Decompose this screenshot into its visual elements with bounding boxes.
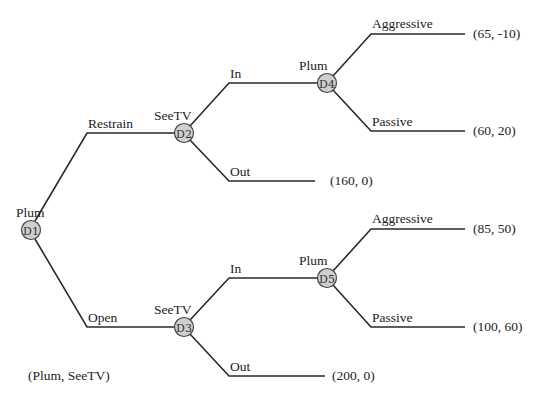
game-tree: D1 D2 D3 D4 D5 Plum SeeTV SeeTV Plum Plu…: [0, 0, 534, 400]
edge-label-open: Open: [88, 310, 117, 325]
edge-d2-in: [190, 83, 318, 126]
edge-d4-aggressive: [333, 34, 465, 76]
node-d4: D4: [318, 74, 337, 93]
node-d5: D5: [318, 269, 337, 288]
edge-label-d4-passive: Passive: [372, 114, 413, 129]
edge-d2-out: [190, 140, 315, 181]
edge-d3-in: [190, 278, 318, 320]
player-label-d3: SeeTV: [154, 302, 192, 317]
edge-label-d3-in: In: [230, 261, 241, 276]
payoff-d4-passive: (60, 20): [473, 123, 516, 138]
node-d2-id: D2: [176, 128, 192, 141]
edge-label-restrain: Restrain: [88, 116, 133, 131]
payoff-d5-aggressive: (85, 50): [473, 221, 516, 236]
node-d1-id: D1: [23, 225, 39, 238]
payoff-d3-out: (200, 0): [332, 368, 375, 383]
edge-d5-aggressive: [333, 229, 465, 271]
player-label-d4: Plum: [299, 58, 328, 73]
edge-label-d5-aggressive: Aggressive: [372, 211, 433, 226]
player-label-d1: Plum: [16, 205, 45, 220]
node-d2: D2: [175, 124, 194, 143]
payoff-d4-aggressive: (65, -10): [473, 26, 520, 41]
edge-label-d2-out: Out: [230, 164, 250, 179]
edge-d3-out: [190, 334, 325, 376]
edge-label-d2-in: In: [230, 66, 241, 81]
payoff-d5-passive: (100, 60): [473, 319, 523, 334]
node-d5-id: D5: [319, 273, 335, 286]
edge-label-d3-out: Out: [230, 359, 250, 374]
payoff-order-caption: (Plum, SeeTV): [28, 368, 110, 383]
node-d3-id: D3: [176, 322, 192, 335]
player-label-d5: Plum: [299, 253, 328, 268]
edge-label-d5-passive: Passive: [372, 310, 413, 325]
player-label-d2: SeeTV: [154, 108, 192, 123]
edge-label-d4-aggressive: Aggressive: [372, 16, 433, 31]
node-d4-id: D4: [319, 78, 335, 91]
node-d3: D3: [175, 318, 194, 337]
node-d1: D1: [22, 221, 41, 240]
edge-restrain: [35, 133, 176, 221]
payoff-d2-out: (160, 0): [330, 173, 373, 188]
